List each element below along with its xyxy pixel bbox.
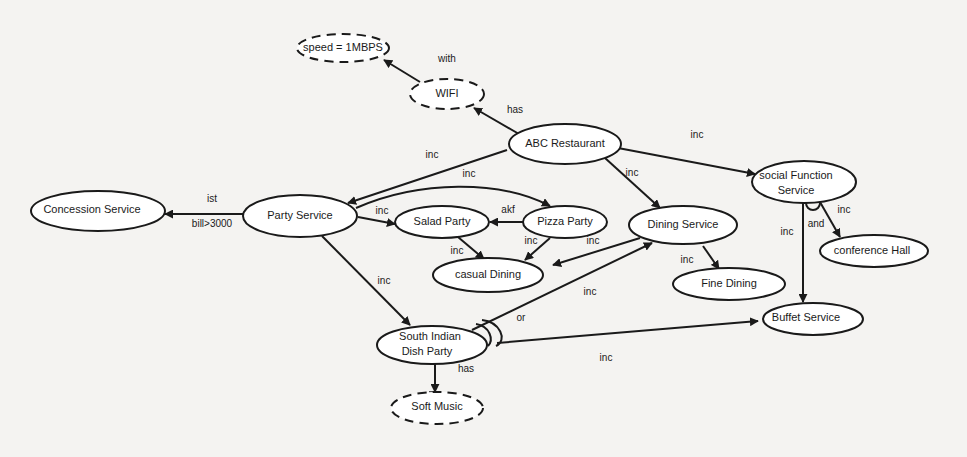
edge-abc-social xyxy=(618,148,755,174)
svg-text:WIFI: WIFI xyxy=(435,87,458,99)
edge-label-inc: inc xyxy=(525,235,538,246)
svg-text:Salad Party: Salad Party xyxy=(414,215,471,227)
connector-label-and: and xyxy=(808,218,825,229)
svg-text:conference Hall: conference Hall xyxy=(834,244,910,256)
svg-text:Pizza Party: Pizza Party xyxy=(537,215,593,227)
svg-text:Dish Party: Dish Party xyxy=(402,345,453,357)
edge-label-inc: inc xyxy=(838,204,851,215)
svg-text:Fine Dining: Fine Dining xyxy=(701,277,757,289)
edge-label-inc: inc xyxy=(463,168,476,179)
edge-wifi-speed xyxy=(384,60,420,82)
node-buffet-service[interactable]: Buffet Service xyxy=(763,303,863,335)
edge-southindian-buffet xyxy=(497,321,758,343)
edge-label-inc: inc xyxy=(451,245,464,256)
node-conference-hall[interactable]: conference Hall xyxy=(820,235,928,267)
node-speed[interactable]: speed = 1MBPS xyxy=(297,34,389,62)
node-dining-service[interactable]: Dining Service xyxy=(629,206,737,244)
edge-dining-fine xyxy=(703,246,719,269)
node-fine-dining[interactable]: Fine Dining xyxy=(673,268,785,300)
edge-party-southindian xyxy=(322,236,410,325)
svg-text:ABC Restaurant: ABC Restaurant xyxy=(525,137,604,149)
connector-label-or: or xyxy=(517,312,527,323)
svg-text:Dining Service: Dining Service xyxy=(648,218,719,230)
edge-label-inc: inc xyxy=(584,286,597,297)
edge-label-inc: inc xyxy=(626,167,639,178)
edge-label-with: with xyxy=(437,53,456,64)
node-soft-music[interactable]: Soft Music xyxy=(391,392,483,424)
svg-text:social Function: social Function xyxy=(759,169,832,181)
svg-text:casual Dining: casual Dining xyxy=(455,268,521,280)
svg-text:speed = 1MBPS: speed = 1MBPS xyxy=(303,41,383,53)
edge-label-akf: akf xyxy=(501,204,515,215)
and-connector-arc xyxy=(806,203,820,210)
edge-label-inc: inc xyxy=(378,275,391,286)
svg-text:Party Service: Party Service xyxy=(267,209,332,221)
edge-party-salad xyxy=(358,217,395,224)
edge-label-inc: inc xyxy=(781,226,794,237)
node-salad-party[interactable]: Salad Party xyxy=(395,206,489,238)
edge-label-has: has xyxy=(458,363,474,374)
node-south-indian-dish-party[interactable]: South Indian Dish Party xyxy=(377,326,487,364)
svg-text:South Indian: South Indian xyxy=(399,330,461,342)
edge-label-inc: inc xyxy=(681,254,694,265)
svg-text:Buffet Service: Buffet Service xyxy=(772,311,840,323)
node-concession-service[interactable]: Concession Service xyxy=(31,191,165,231)
node-wifi[interactable]: WIFI xyxy=(410,79,484,109)
edge-label-inc: inc xyxy=(376,205,389,216)
svg-text:Service: Service xyxy=(778,184,815,196)
svg-text:Soft Music: Soft Music xyxy=(411,400,463,412)
node-pizza-party[interactable]: Pizza Party xyxy=(523,206,607,238)
edge-label-bill-condition: bill>3000 xyxy=(192,218,233,229)
edge-abc-dining xyxy=(605,158,660,208)
semantic-network-diagram: with has inc inc inc ist bill>3000 inc i… xyxy=(0,0,967,457)
svg-text:Concession Service: Concession Service xyxy=(43,203,140,215)
node-abc-restaurant[interactable]: ABC Restaurant xyxy=(509,124,621,164)
edge-label-inc: inc xyxy=(691,129,704,140)
edge-label-inc: inc xyxy=(600,352,613,363)
node-social-function-service[interactable]: social Function Service xyxy=(752,161,856,203)
edge-label-ist: ist xyxy=(207,193,217,204)
node-party-service[interactable]: Party Service xyxy=(243,195,357,237)
edge-label-has: has xyxy=(507,104,523,115)
node-casual-dining[interactable]: casual Dining xyxy=(433,258,543,292)
edge-label-inc: inc xyxy=(426,149,439,160)
